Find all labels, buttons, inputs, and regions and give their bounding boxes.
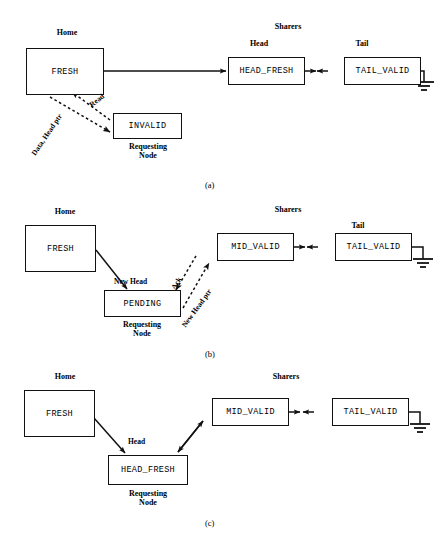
panel-a-tail-sharer-node[interactable]: TAIL_VALID — [344, 57, 421, 85]
panel-a-head-label: Head — [238, 39, 280, 48]
panel-a-home-label: Home — [42, 28, 92, 37]
ground-symbol — [413, 259, 433, 267]
panel-a-head-sharer-node[interactable]: HEAD_FRESH — [228, 57, 305, 85]
panel-c-mid-sharer-node[interactable]: MID_VALID — [212, 398, 289, 426]
panel-c-tail-sharer-node[interactable]: TAIL_VALID — [332, 398, 409, 426]
panel-b-tail-label: Tail — [340, 221, 376, 230]
panel-b-sharers-label: Sharers — [262, 205, 314, 214]
panel-b-home-node[interactable]: FRESH — [25, 225, 96, 272]
panel-a-home-node[interactable]: FRESH — [26, 48, 104, 95]
panel-b-requesting-node-label: Requesting Node — [107, 320, 177, 338]
panel-c-caption: (c) — [205, 518, 214, 528]
panel-b-tail-sharer-node[interactable]: TAIL_VALID — [335, 233, 412, 261]
home-to-requesting-arrow — [94, 418, 125, 453]
panel-c-head-label: Head — [128, 437, 145, 446]
panel-c-sharers-label: Sharers — [260, 372, 312, 381]
tail-ground-wire — [412, 247, 423, 259]
panel-b-mid-sharer-node[interactable]: MID_VALID — [217, 233, 294, 261]
tail-ground-wire — [421, 71, 424, 82]
panel-b-new-head-label: New Head — [114, 277, 147, 286]
figure-container: Home Sharers Head Tail FRESH INVALID HEA… — [0, 0, 444, 549]
panel-c-home-node[interactable]: FRESH — [24, 390, 95, 437]
tail-ground-wire — [409, 412, 420, 424]
panel-b-caption: (b) — [205, 349, 215, 359]
panel-a-tail-label: Tail — [344, 39, 380, 48]
panel-b-requesting-node[interactable]: PENDING — [104, 290, 181, 317]
panel-a-sharers-label: Sharers — [262, 22, 314, 31]
panel-a-requesting-node-label: Requesting Node — [113, 142, 183, 160]
panel-a-caption: (a) — [205, 180, 214, 190]
panel-c-home-label: Home — [40, 372, 90, 381]
ground-symbol — [410, 424, 430, 432]
panel-c-requesting-node-label: Requesting Node — [113, 489, 183, 507]
panel-b-home-label: Home — [40, 207, 90, 216]
mid-to-requesting-arrow — [178, 421, 203, 452]
panel-c-requesting-node[interactable]: HEAD_FRESH — [108, 455, 188, 485]
panel-a-requesting-node[interactable]: INVALID — [113, 113, 182, 139]
